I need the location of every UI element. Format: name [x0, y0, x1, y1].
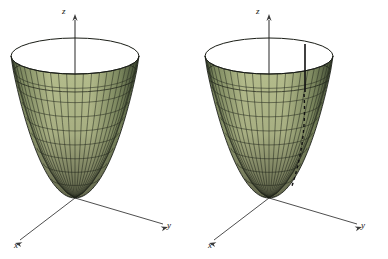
z-axis-arrowhead	[266, 14, 271, 21]
paraboloid-svg: zyx	[0, 0, 194, 259]
axis-label-x: x	[13, 240, 18, 250]
x-axis	[214, 198, 269, 240]
y-axis	[269, 198, 357, 224]
axis-label-y: y	[166, 220, 171, 230]
paraboloid-svg: zyx	[194, 0, 388, 259]
z-axis-arrowhead	[72, 14, 77, 21]
figure-root: zyx zyx	[0, 0, 388, 259]
vertex-shading	[11, 56, 139, 198]
axis-label-z: z	[61, 6, 66, 16]
panel-left-paraboloid: zyx	[0, 0, 194, 259]
y-axis	[75, 198, 163, 224]
vertex-shading	[205, 56, 333, 198]
axis-label-y: y	[360, 220, 365, 230]
axis-label-x: x	[207, 240, 212, 250]
x-axis	[20, 198, 75, 240]
panel-right-paraboloid: zyx	[194, 0, 388, 259]
axis-label-z: z	[255, 6, 260, 16]
